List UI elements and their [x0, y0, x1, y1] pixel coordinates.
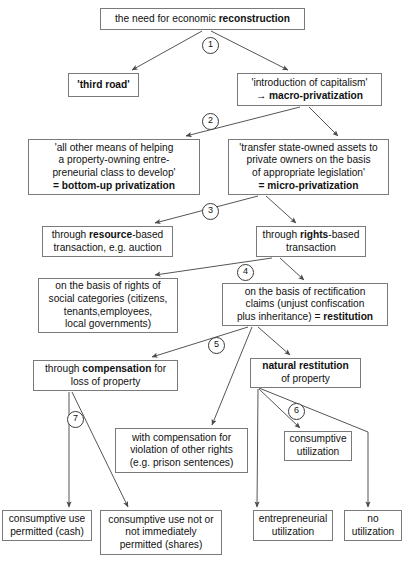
node-third-road: 'third road' — [68, 73, 139, 97]
plain-text: on the basis of rights of — [55, 280, 160, 291]
plain-text: (e.g. prison sentences) — [130, 457, 234, 468]
plain-text: entrepreneurial — [259, 513, 328, 524]
edge-restitution-to-natural — [258, 327, 290, 355]
plain-text: utilization — [272, 526, 314, 537]
node-text-line: private owners on the basis — [246, 154, 370, 167]
node-text-line: entrepreneurial — [259, 513, 328, 526]
step-marker-1: 1 — [202, 37, 219, 54]
emphasis-text: = — [53, 180, 62, 191]
node-text-line: utilization — [352, 526, 394, 539]
edge-capitalism-to-micro — [309, 107, 338, 136]
node-text-line: of appropriate legislation' — [252, 167, 365, 180]
emphasis-text: macro-privatization — [269, 90, 363, 101]
node-text-line: through resource-based — [52, 229, 164, 242]
node-consumptive-use-not-permitted: consumptive use not ornot immediatelyper… — [100, 510, 222, 555]
plain-text: a property-owning entre- — [59, 154, 170, 165]
node-text-line: of property — [281, 373, 330, 386]
node-rights-of-social-categories: on the basis of rights ofsocial categori… — [38, 278, 178, 333]
node-text-line: consumptive use not or — [108, 514, 213, 527]
step-marker-7: 7 — [67, 411, 84, 428]
plain-text: no — [367, 513, 378, 524]
plain-text: through — [45, 363, 82, 374]
edge-micro-to-rights — [266, 196, 296, 223]
emphasis-text: rights — [300, 229, 328, 240]
node-text-line: = bottom-up privatization — [53, 180, 175, 193]
node-no-utilization: noutilization — [344, 510, 402, 541]
node-text-line: natural restitution — [262, 360, 349, 373]
edge-need-to-capitalism — [211, 31, 288, 70]
node-text-line: utilization — [272, 526, 314, 539]
plain-text: violation of other rights — [130, 444, 233, 455]
plain-text: loss of property — [71, 376, 141, 387]
plain-text: private owners on the basis — [246, 154, 370, 165]
plain-text: not immediately — [125, 526, 196, 537]
emphasis-text: resource — [89, 229, 132, 240]
plain-text: for — [151, 363, 166, 374]
emphasis-text: = — [259, 180, 268, 191]
emphasis-text: natural restitution — [262, 360, 349, 371]
plain-text: claims (unjust confiscation — [246, 298, 365, 309]
plain-text: consumptive — [289, 433, 346, 444]
emphasis-text: reconstruction — [219, 13, 290, 24]
emphasis-text: restitution — [323, 311, 373, 322]
plain-text: transaction, e.g. auction — [53, 242, 161, 253]
node-natural-restitution: natural restitutionof property — [250, 358, 361, 388]
plain-text: utilization — [352, 526, 394, 537]
emphasis-text: compensation — [82, 363, 151, 374]
step-marker-2: 2 — [202, 113, 219, 130]
node-bottom-up-privatization: 'all other means of helpinga property-ow… — [28, 139, 200, 195]
node-text-line: plus inheritance) = restitution — [237, 311, 373, 324]
plain-text: of property — [281, 373, 330, 384]
node-text-line: through rights-based — [263, 229, 360, 242]
node-text-line: violation of other rights — [130, 444, 233, 457]
node-resource-based-transaction: through resource-basedtransaction, e.g. … — [42, 226, 173, 257]
plain-text: 'all other means of helping — [55, 142, 174, 153]
node-text-line: loss of property — [71, 376, 141, 389]
edge-rights-to-restitution — [280, 258, 304, 280]
plain-text: consumptive use not or — [108, 514, 213, 525]
plain-text: utilization — [297, 446, 339, 457]
node-text-line: not immediately — [125, 526, 196, 539]
node-consumptive-utilization: consumptiveutilization — [284, 431, 352, 461]
step-marker-4: 4 — [237, 264, 254, 281]
node-text-line: consumptive — [289, 433, 346, 446]
plain-text: social categories (citizens, — [49, 293, 168, 304]
node-text-line: 'transfer state-owned assets to — [239, 142, 377, 155]
node-text-line: transaction, e.g. auction — [53, 242, 161, 255]
plain-text: of appropriate legislation' — [252, 167, 365, 178]
emphasis-text: bottom-up privatization — [62, 180, 175, 191]
edge-natural-to-entrepreneurial — [257, 389, 258, 507]
node-text-line: (e.g. prison sentences) — [130, 457, 234, 470]
node-text-line: the need for economic reconstruction — [115, 13, 290, 26]
node-rights-based-transaction: through rights-basedtransaction — [256, 226, 366, 257]
plain-text: 'transfer state-owned assets to — [239, 142, 377, 153]
node-text-line: tenants,employees, — [64, 306, 152, 319]
node-consumptive-use-permitted: consumptive usepermitted (cash) — [2, 510, 92, 541]
node-text-line: claims (unjust confiscation — [246, 298, 365, 311]
plain-text: the need for economic — [115, 13, 219, 24]
node-restitution: on the basis of rectificationclaims (unj… — [222, 283, 388, 326]
plain-text: permitted (shares) — [120, 539, 203, 550]
node-text-line: → macro-privatization — [256, 90, 363, 103]
edge-rights-to-social — [155, 258, 272, 275]
node-text-line: with compensation for — [132, 432, 231, 445]
step-marker-5: 5 — [208, 337, 225, 354]
plain-text: through — [52, 229, 89, 240]
emphasis-text: micro-privatization — [267, 180, 358, 191]
node-text-line: = micro-privatization — [259, 180, 359, 193]
plain-text: -based — [328, 229, 359, 240]
emphasis-text: 'third road' — [77, 79, 129, 90]
plain-text: tenants,employees, — [64, 306, 152, 317]
node-text-line: permitted (shares) — [120, 539, 203, 552]
node-introduction-of-capitalism: 'introduction of capitalism'→ macro-priv… — [237, 73, 382, 106]
node-text-line: local governments) — [65, 318, 151, 331]
node-text-line: no — [367, 513, 378, 526]
edge-need-to-third-road — [132, 31, 202, 70]
plain-text: transaction — [286, 242, 336, 253]
node-text-line: a property-owning entre- — [59, 154, 170, 167]
plain-text: plus inheritance) = — [237, 311, 323, 322]
flowchart-diagram: the need for economic reconstruction'thi… — [0, 0, 407, 562]
plain-text: preneurial class to develop' — [52, 167, 175, 178]
node-text-line: on the basis of rights of — [55, 280, 160, 293]
node-micro-privatization: 'transfer state-owned assets toprivate o… — [228, 139, 389, 195]
